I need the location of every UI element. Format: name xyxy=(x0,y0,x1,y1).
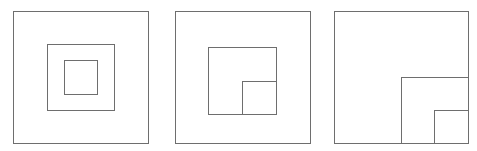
middle-square xyxy=(48,45,115,111)
panel-nested-corner-bottom-right xyxy=(335,12,469,144)
panel-concentric-squares xyxy=(14,12,149,144)
nested-squares-diagram xyxy=(0,0,477,151)
panel-nested-corner-in-center xyxy=(176,12,311,144)
inner-square xyxy=(243,82,277,115)
inner-square xyxy=(65,61,98,95)
outer-square xyxy=(14,12,149,144)
outer-square xyxy=(176,12,311,144)
inner-square xyxy=(435,111,469,144)
